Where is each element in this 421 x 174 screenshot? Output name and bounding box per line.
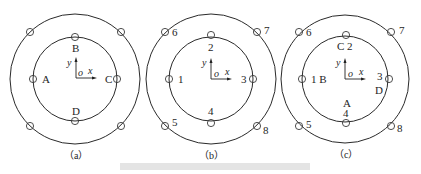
label-bottom: D: [72, 105, 80, 117]
panel-caption: （b）: [199, 150, 224, 161]
label-right: C: [105, 73, 112, 85]
hole-bottom: [207, 119, 214, 126]
label-left: 1: [178, 73, 184, 85]
panel-caption: （a）: [64, 150, 88, 161]
label-outer-bottom-left: 5: [306, 118, 312, 130]
label-top: C 2: [337, 40, 353, 52]
x-axis-label: x: [224, 66, 230, 77]
hole-top: [207, 31, 214, 38]
origin-label: o: [348, 68, 353, 79]
label-right: 3: [377, 70, 383, 82]
x-axis-label: x: [87, 65, 93, 76]
hole-bottom: [342, 119, 349, 126]
figure-caption-faint: [120, 163, 310, 170]
hole-top: [342, 31, 349, 38]
label-outer-top-left: 6: [306, 26, 312, 38]
panel-c: C 2 1 B 3 4 D A 6 7 5 8 y x o （c）: [281, 15, 409, 160]
y-axis-label: y: [66, 57, 72, 68]
label-outer-top-right: 7: [264, 24, 270, 36]
hole-outer-top-right: [117, 28, 124, 35]
axes: y x o: [335, 57, 366, 81]
hole-outer-bottom-right: [253, 122, 260, 129]
origin-label: o: [214, 68, 219, 79]
label-top: B: [72, 42, 79, 54]
label-outer-bottom-right: 8: [397, 122, 403, 134]
hole-outer-top-left: [161, 28, 168, 35]
label-outer-bottom-right: 8: [263, 124, 269, 136]
origin-label: o: [78, 67, 83, 78]
axes: y x o: [66, 57, 97, 80]
y-axis-label: y: [201, 57, 207, 68]
label-top: 2: [208, 41, 214, 53]
x-axis-label: x: [358, 66, 364, 77]
label-left: A: [42, 73, 50, 85]
hole-outer-top-right: [253, 28, 260, 35]
hole-right: [385, 75, 392, 82]
axes: y x o: [201, 57, 232, 81]
label-right: 3: [241, 73, 247, 85]
y-axis-label: y: [335, 57, 341, 68]
label-extra-right: D: [375, 84, 383, 96]
figure: B A C D y x o （a） 2 1 3 4 6 7 5 8: [0, 0, 421, 174]
panel-a: B A C D y x o （a）: [10, 14, 140, 161]
label-left: 1 B: [311, 73, 327, 85]
label-outer-bottom-left: 5: [172, 116, 178, 128]
hole-outer-bottom-left: [161, 122, 168, 129]
label-outer-top-right: 7: [399, 24, 405, 36]
panel-b: 2 1 3 4 6 7 5 8 y x o （b）: [146, 14, 276, 161]
panel-caption: （c）: [334, 149, 358, 160]
label-outer-top-left: 6: [172, 26, 178, 38]
label-bottom: 4: [208, 105, 214, 117]
label-extra-bottom: A: [343, 97, 351, 109]
hole-outer-bottom-right: [117, 122, 124, 129]
